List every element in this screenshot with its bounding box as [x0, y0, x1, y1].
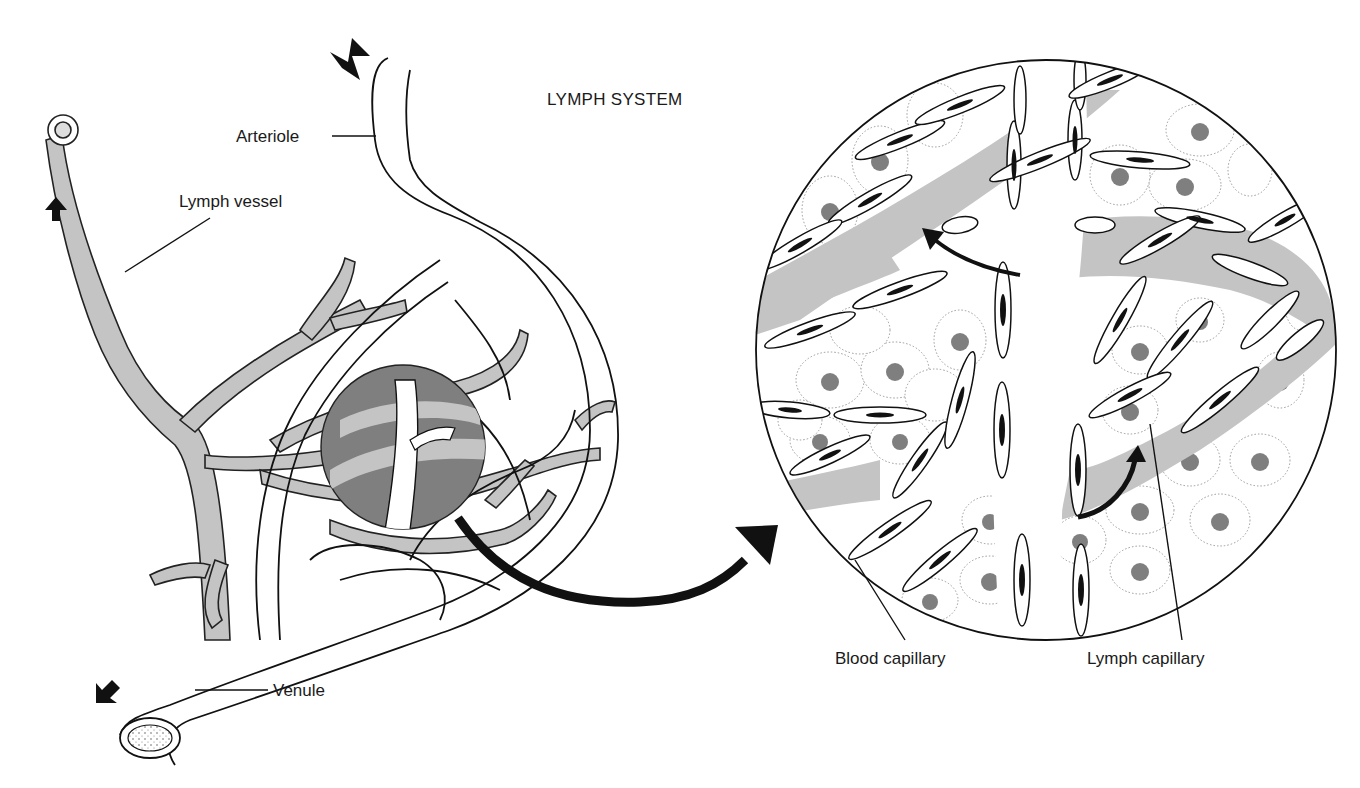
arrow-down-left-icon	[96, 680, 120, 703]
vessel-network	[46, 58, 618, 765]
magnified-view	[740, 50, 1340, 640]
label-arteriole: Arteriole	[236, 128, 299, 145]
lymph-vessel	[46, 115, 615, 640]
figure-title: LYMPH SYSTEM	[547, 91, 683, 108]
label-lymph-capillary: Lymph capillary	[1087, 650, 1204, 667]
label-venule: Venule	[273, 682, 325, 699]
label-lymph-vessel: Lymph vessel	[179, 193, 282, 210]
arrow-down-left-icon	[330, 38, 370, 80]
label-blood-capillary: Blood capillary	[835, 650, 946, 667]
lymph-system-diagram: LYMPH SYSTEM Arteriole Lymph vessel Venu…	[0, 0, 1360, 788]
